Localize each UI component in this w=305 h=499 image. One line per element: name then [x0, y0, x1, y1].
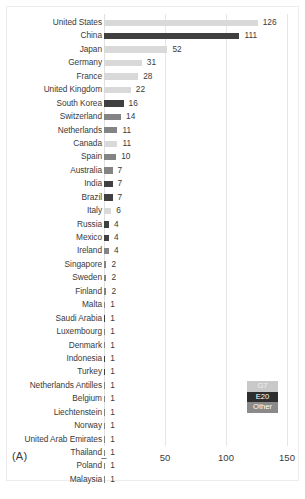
bar-other	[104, 261, 106, 267]
bar-value-label: 4	[114, 244, 119, 257]
bar-row: India7	[0, 177, 305, 190]
bar-other	[104, 329, 105, 335]
bar-value-label: 111	[244, 29, 257, 42]
category-label: Sweden	[72, 271, 102, 284]
bar-other	[104, 288, 106, 294]
bar-row: Japan52	[0, 43, 305, 56]
bar-value-label: 1	[110, 312, 115, 325]
bar-value-label: 1	[110, 379, 115, 392]
category-label: South Korea	[56, 97, 102, 110]
category-label: Brazil	[82, 191, 102, 204]
bar-row: Norway1	[0, 419, 305, 432]
bar-g7	[104, 73, 138, 79]
bar-value-label: 14	[126, 110, 135, 123]
bar-e20	[104, 221, 109, 227]
legend-item-e20[interactable]: E20	[247, 392, 278, 403]
bar-row: Canada11	[0, 137, 305, 150]
bar-value-label: 1	[110, 406, 115, 419]
bar-row: Finland2	[0, 285, 305, 298]
category-label: Liechtenstein	[54, 406, 102, 419]
category-label: Denmark	[69, 339, 102, 352]
bar-row: Brazil7	[0, 191, 305, 204]
category-label: Germany	[68, 56, 102, 69]
category-label: Norway	[74, 419, 102, 432]
category-label: Malaysia	[70, 473, 102, 486]
bar-row: Sweden2	[0, 271, 305, 284]
bar-other	[104, 436, 105, 442]
category-label: Netherlands	[58, 124, 102, 137]
bar-g7	[104, 208, 111, 214]
bar-value-label: 10	[121, 150, 130, 163]
bar-other	[104, 248, 109, 254]
bar-other	[104, 476, 105, 482]
bar-row: Turkey1	[0, 365, 305, 378]
x-tick-label-50: 50	[160, 452, 171, 463]
bar-other	[104, 382, 105, 388]
bar-row: Malta1	[0, 298, 305, 311]
category-label: Canada	[73, 137, 102, 150]
bar-row: Australia7	[0, 164, 305, 177]
legend-item-other[interactable]: Other	[247, 402, 278, 413]
bar-row: Russia4	[0, 218, 305, 231]
bar-value-label: 22	[136, 83, 145, 96]
x-tick-label-100: 100	[218, 452, 234, 463]
bar-value-label: 1	[110, 473, 115, 486]
bar-value-label: 4	[114, 231, 119, 244]
bar-other	[104, 167, 113, 173]
category-label: France	[76, 70, 102, 83]
bar-row: Ireland4	[0, 244, 305, 257]
category-label: Luxembourg	[56, 325, 102, 338]
category-label: United States	[53, 16, 102, 29]
bar-other	[104, 396, 105, 402]
category-label: Australia	[70, 164, 102, 177]
bar-g7	[104, 46, 167, 52]
bar-e20	[104, 235, 109, 241]
x-axis-ticks: –50100150	[0, 452, 305, 472]
bar-other	[104, 127, 117, 133]
bar-value-label: 2	[111, 258, 116, 271]
bar-value-label: 126	[263, 16, 277, 29]
x-tick-label-0: –	[101, 452, 106, 463]
bar-g7	[104, 60, 142, 66]
category-label: Italy	[87, 204, 102, 217]
bar-value-label: 28	[143, 70, 152, 83]
x-tick-label-150: 150	[279, 452, 295, 463]
bar-e20	[104, 315, 105, 321]
bar-value-label: 2	[111, 285, 116, 298]
bar-value-label: 11	[122, 124, 131, 137]
bar-row: Luxembourg1	[0, 325, 305, 338]
bar-value-label: 2	[111, 271, 116, 284]
bar-value-label: 16	[129, 97, 138, 110]
bar-other	[104, 275, 106, 281]
bar-row: France28	[0, 70, 305, 83]
bar-e20	[104, 100, 124, 106]
category-label: Indonesia	[66, 352, 102, 365]
bar-value-label: 1	[110, 433, 115, 446]
bar-row: Switzerland14	[0, 110, 305, 123]
bar-value-label: 1	[110, 419, 115, 432]
bar-e20	[104, 369, 105, 375]
category-label: Singapore	[65, 258, 102, 271]
bar-row: Malaysia1	[0, 473, 305, 486]
legend-item-g7[interactable]: G7	[247, 381, 278, 392]
category-label: Turkey	[77, 365, 102, 378]
category-label: Russia	[77, 218, 102, 231]
bar-value-label: 1	[110, 339, 115, 352]
category-label: Belgium	[72, 392, 102, 405]
bar-value-label: 6	[116, 204, 121, 217]
bar-g7	[104, 141, 117, 147]
bar-value-label: 1	[110, 365, 115, 378]
bar-e20	[104, 33, 239, 39]
bar-e20	[104, 194, 113, 200]
bar-g7	[104, 87, 131, 93]
bar-value-label: 1	[110, 298, 115, 311]
bar-value-label: 7	[118, 191, 123, 204]
bar-e20	[104, 181, 113, 187]
bar-value-label: 7	[118, 164, 123, 177]
bar-row: Germany31	[0, 56, 305, 69]
chart-legend: G7E20Other	[247, 381, 278, 413]
bar-row: Spain10	[0, 150, 305, 163]
bar-other	[104, 302, 105, 308]
category-label: United Arab Emirates	[25, 433, 102, 446]
category-label: United Kingdom	[44, 83, 102, 96]
